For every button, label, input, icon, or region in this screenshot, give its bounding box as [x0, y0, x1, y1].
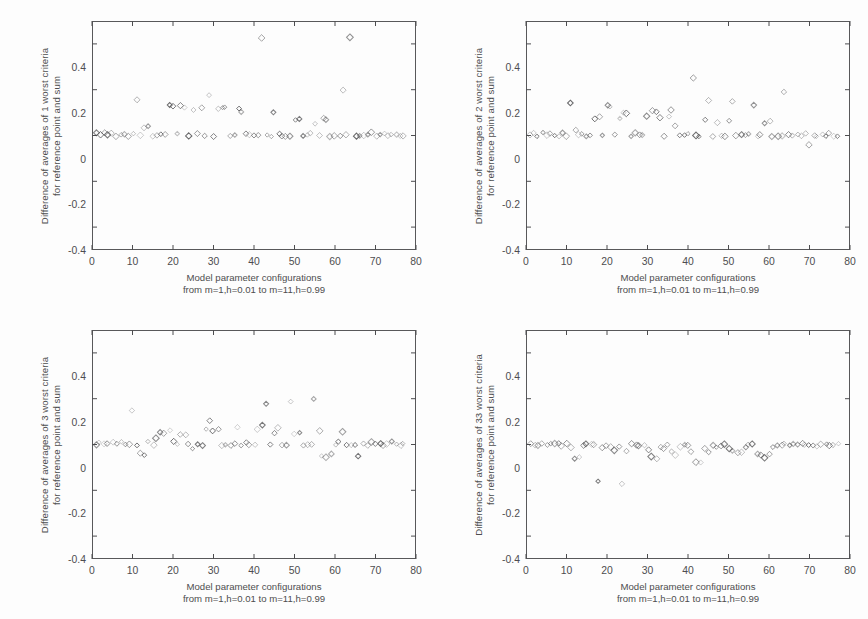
x-tick-label: 10: [561, 256, 573, 267]
x-tick-label: 60: [763, 256, 775, 267]
x-tick-label: 20: [601, 256, 613, 267]
y-axis-label-wrap: Difference of averages of 33 worst crite…: [448, 330, 474, 559]
x-tick-label: 0: [89, 256, 95, 267]
x-tick-label: 80: [844, 565, 856, 576]
y-tick-label: 0.2: [72, 108, 86, 119]
x-tick-label: 40: [682, 565, 694, 576]
y-axis-label-wrap: Difference of averages of 2 worst criter…: [448, 21, 474, 250]
x-tick-labels: 0 10 20 30 40 50 60 70 80: [0, 561, 434, 581]
x-tick-label: 20: [167, 256, 179, 267]
x-tick-label: 10: [127, 256, 139, 267]
y-tick-label: -0.2: [502, 199, 520, 210]
x-axis-label: Model parameter configurations from m=1,…: [92, 272, 416, 296]
y-tick-label: -0.2: [68, 508, 86, 519]
plot-frame: [526, 330, 850, 559]
y-tick-label: -0.2: [68, 199, 86, 210]
x-tick-labels: 0 10 20 30 40 50 60 70 80: [434, 252, 868, 272]
y-tick-label: 0: [514, 463, 520, 474]
figure-container: Difference of averages of 1 worst criter…: [0, 0, 868, 619]
plot-frame: [92, 21, 416, 250]
x-tick-label: 30: [208, 256, 220, 267]
x-tick-label: 60: [329, 565, 341, 576]
x-tick-label: 10: [127, 565, 139, 576]
scatter-panel-33-worst: Difference of averages of 33 worst crite…: [434, 309, 868, 618]
x-tick-label: 50: [289, 565, 301, 576]
x-tick-labels: 0 10 20 30 40 50 60 70 80: [0, 252, 434, 272]
x-tick-label: 20: [601, 565, 613, 576]
x-tick-label: 30: [208, 565, 220, 576]
scatter-panel-3-worst: Difference of averages of 3 worst criter…: [0, 309, 434, 618]
x-tick-label: 50: [289, 256, 301, 267]
y-axis-label-wrap: Difference of averages of 3 worst criter…: [14, 330, 40, 559]
x-tick-label: 60: [763, 565, 775, 576]
x-tick-label: 60: [329, 256, 341, 267]
x-tick-label: 10: [561, 565, 573, 576]
y-tick-label: -0.2: [502, 508, 520, 519]
x-tick-label: 50: [723, 256, 735, 267]
plot-frame: [526, 21, 850, 250]
x-tick-label: 0: [523, 256, 529, 267]
y-tick-label: 0: [80, 463, 86, 474]
x-tick-label: 0: [523, 565, 529, 576]
x-tick-label: 70: [804, 256, 816, 267]
y-tick-label: 0: [514, 154, 520, 165]
x-tick-label: 80: [410, 565, 422, 576]
y-tick-label: 0.2: [506, 108, 520, 119]
plot-frame: [92, 330, 416, 559]
y-tick-label: 0.4: [72, 371, 86, 382]
x-tick-label: 70: [370, 256, 382, 267]
x-tick-label: 30: [642, 565, 654, 576]
y-tick-label: 0.4: [72, 62, 86, 73]
y-tick-label: 0.2: [506, 417, 520, 428]
y-tick-label: 0.4: [506, 371, 520, 382]
x-tick-label: 40: [248, 256, 260, 267]
x-tick-label: 70: [370, 565, 382, 576]
x-tick-label: 30: [642, 256, 654, 267]
x-tick-label: 80: [844, 256, 856, 267]
y-tick-label: 0: [80, 154, 86, 165]
x-tick-label: 70: [804, 565, 816, 576]
x-tick-labels: 0 10 20 30 40 50 60 70 80: [434, 561, 868, 581]
x-tick-label: 80: [410, 256, 422, 267]
x-axis-label: Model parameter configurations from m=1,…: [526, 272, 850, 296]
x-axis-label: Model parameter configurations from m=1,…: [92, 581, 416, 605]
x-tick-label: 50: [723, 565, 735, 576]
y-tick-label: 0.2: [72, 417, 86, 428]
x-axis-label: Model parameter configurations from m=1,…: [526, 581, 850, 605]
x-tick-label: 40: [248, 565, 260, 576]
scatter-panel-1-worst: Difference of averages of 1 worst criter…: [0, 0, 434, 309]
x-tick-label: 20: [167, 565, 179, 576]
y-tick-label: 0.4: [506, 62, 520, 73]
x-tick-label: 0: [89, 565, 95, 576]
y-axis-label-wrap: Difference of averages of 1 worst criter…: [14, 21, 40, 250]
x-tick-label: 40: [682, 256, 694, 267]
scatter-panel-2-worst: Difference of averages of 2 worst criter…: [434, 0, 868, 309]
